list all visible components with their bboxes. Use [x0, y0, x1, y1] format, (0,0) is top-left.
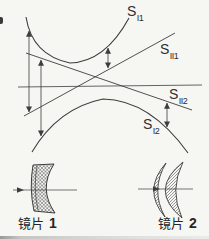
line-s-ii1: [24, 33, 175, 116]
lens2-rear-surface: [165, 162, 183, 218]
curve-s-i1: [26, 17, 129, 63]
lens2-front-surface: [154, 163, 166, 217]
label-lens-2: 镜片2: [158, 216, 197, 230]
field-curves-and-lenses-drawing: [0, 0, 209, 239]
lens1-axis-arrowhead-icon: [17, 187, 24, 192]
scan-bottom-band: [0, 236, 209, 239]
label-s-ii2: SII2: [169, 87, 187, 105]
scan-edge-mark: [0, 17, 3, 24]
astigmatism-field-curves-figure: SI1 SII1 SII2 SI2 镜片1 镜片2: [0, 0, 209, 239]
curve-s-i2: [32, 99, 188, 153]
lens1-cross-section: [31, 164, 55, 213]
label-lens-1: 镜片1: [18, 216, 57, 230]
label-s-i1: SI1: [127, 4, 143, 22]
label-s-ii1: SII1: [160, 42, 178, 60]
label-s-i2: SI2: [143, 117, 159, 135]
